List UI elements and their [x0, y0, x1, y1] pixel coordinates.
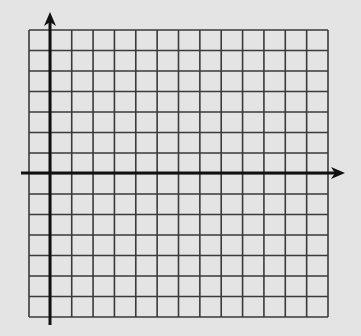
coordinate-plane: [0, 0, 361, 336]
coordinate-grid: [0, 0, 361, 336]
